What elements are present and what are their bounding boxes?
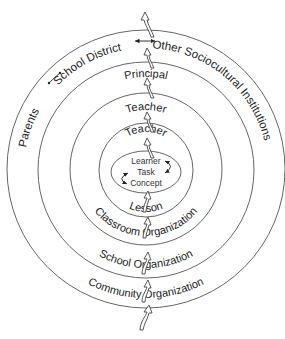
flow-arrow-icon — [144, 78, 154, 98]
flow-arrow-icon — [141, 12, 154, 37]
teacher-inner-label: Teacher — [123, 122, 170, 139]
core-concept-label: Concept — [130, 178, 162, 188]
task-concept-arrow — [122, 173, 128, 184]
flow-arrow-icon — [140, 305, 152, 330]
parents-label: Parents — [16, 106, 41, 149]
core-learner-label: Learner — [131, 156, 160, 166]
other-institutions-label: Other Sociocultural Institutions — [152, 38, 274, 142]
core-task-label: Task — [137, 167, 155, 177]
flow-arrow-icon — [144, 138, 154, 158]
flow-arrow-icon — [144, 48, 154, 68]
nested-context-diagram: Parents School District Other Sociocultu… — [0, 0, 285, 339]
learner-task-arrow — [165, 161, 171, 173]
